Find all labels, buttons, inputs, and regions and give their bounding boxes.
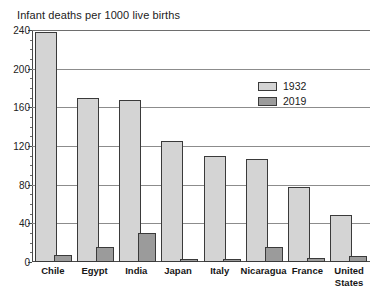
infant-mortality-bar-chart: Infant deaths per 1000 live births 04080… — [0, 0, 383, 305]
x-axis-label-united-states: United States — [328, 265, 370, 288]
y-tick-label-80: 80 — [19, 179, 30, 190]
bar-india-2019[interactable] — [138, 233, 156, 262]
bar-group — [243, 30, 285, 262]
x-axis-label-chile: Chile — [32, 265, 74, 288]
bar-group — [32, 30, 74, 262]
bar-chile-1932[interactable] — [35, 32, 57, 262]
bar-united-states-2019[interactable] — [349, 256, 367, 262]
bar-chile-2019[interactable] — [54, 255, 72, 262]
bar-united-states-1932[interactable] — [330, 215, 352, 262]
y-tick-label-120: 120 — [13, 141, 30, 152]
bar-group — [328, 30, 370, 262]
bar-japan-2019[interactable] — [180, 259, 198, 262]
legend-item-1932[interactable]: 1932 — [258, 80, 306, 92]
bar-group — [117, 30, 159, 262]
legend-item-2019[interactable]: 2019 — [258, 95, 306, 107]
legend-label-1932: 1932 — [283, 80, 306, 92]
bar-japan-1932[interactable] — [161, 141, 183, 262]
y-tick-label-240: 240 — [13, 25, 30, 36]
x-axis-label-japan: Japan — [157, 265, 199, 288]
bar-group — [159, 30, 201, 262]
x-axis-labels: ChileEgyptIndiaJapanItalyNicaraguaFrance… — [32, 265, 370, 288]
bar-group — [74, 30, 116, 262]
x-axis-label-italy: Italy — [199, 265, 241, 288]
legend-swatch-2019 — [258, 97, 277, 106]
bar-nicaragua-2019[interactable] — [265, 247, 283, 262]
legend-swatch-1932 — [258, 82, 277, 91]
bar-france-1932[interactable] — [288, 187, 310, 262]
bar-groups — [32, 30, 370, 262]
y-tick-label-0: 0 — [24, 257, 30, 268]
chart-legend: 19322019 — [258, 80, 306, 107]
x-axis-label-india: India — [115, 265, 157, 288]
bar-egypt-2019[interactable] — [96, 247, 114, 262]
legend-label-2019: 2019 — [283, 95, 306, 107]
bar-france-2019[interactable] — [307, 258, 325, 262]
y-tick-label-200: 200 — [13, 63, 30, 74]
bar-group — [286, 30, 328, 262]
plot-area: 04080120160200240 — [32, 30, 370, 262]
bar-italy-1932[interactable] — [204, 156, 226, 262]
y-tick-label-160: 160 — [13, 102, 30, 113]
x-axis-label-nicaragua: Nicaragua — [241, 265, 287, 288]
bar-egypt-1932[interactable] — [77, 98, 99, 262]
x-axis-label-egypt: Egypt — [74, 265, 116, 288]
x-axis-label-france: France — [287, 265, 329, 288]
chart-title: Infant deaths per 1000 live births — [17, 9, 180, 21]
y-tick-label-40: 40 — [19, 218, 30, 229]
bar-group — [201, 30, 243, 262]
bar-italy-2019[interactable] — [223, 259, 241, 262]
